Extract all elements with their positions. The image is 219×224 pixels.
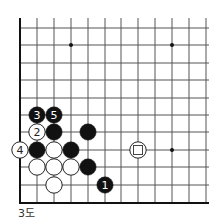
star-point-icon (170, 148, 174, 152)
white-stone (29, 159, 45, 175)
black-stone-3: 3 (29, 107, 45, 123)
white-stone (63, 159, 79, 175)
white-stone-4: 4 (12, 142, 28, 158)
move-number-label: 5 (51, 109, 58, 122)
diagram-caption: 3도 (18, 207, 35, 221)
go-board-diagram: 12345 (0, 0, 219, 224)
black-stone (80, 159, 96, 175)
black-stone-1: 1 (97, 177, 113, 193)
star-point-icon (170, 43, 174, 47)
black-stone (63, 142, 79, 158)
black-stone-5: 5 (46, 107, 62, 123)
black-stone (29, 142, 45, 158)
white-stone (46, 142, 62, 158)
move-number-label: 4 (17, 144, 24, 157)
white-stone (46, 159, 62, 175)
black-stone (46, 124, 62, 140)
white-stone (46, 177, 62, 193)
white-stone (130, 142, 146, 158)
black-stone (80, 124, 96, 140)
star-point-icon (69, 43, 73, 47)
move-number-label: 3 (34, 109, 41, 122)
white-stone-2: 2 (29, 124, 45, 140)
move-number-label: 1 (102, 179, 109, 192)
move-number-label: 2 (34, 126, 41, 139)
